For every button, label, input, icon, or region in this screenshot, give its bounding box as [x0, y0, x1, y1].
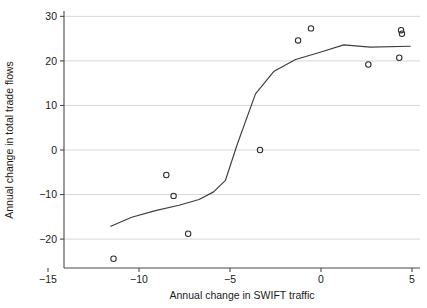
- plot-canvas: −20−100102030 −15−10−505 Annual change i…: [0, 0, 427, 308]
- data-point: [366, 62, 371, 67]
- data-point: [308, 26, 313, 31]
- data-point: [399, 31, 404, 36]
- x-tickmark-group: [48, 268, 412, 272]
- data-point: [111, 256, 116, 261]
- y-tick-label-group: −20−100102030: [39, 10, 57, 245]
- y-tickmark-group: [60, 16, 64, 239]
- scatter-plot-figure: −20−100102030 −15−10−505 Annual change i…: [0, 0, 427, 308]
- data-point: [171, 193, 176, 198]
- y-axis-title: Annual change in total trade flows: [3, 61, 15, 219]
- x-tick-label-3: 0: [318, 273, 324, 285]
- gridline-group: [64, 16, 420, 239]
- x-tick-label-group: −15−10−505: [39, 273, 415, 285]
- x-tick-label-0: −15: [39, 273, 57, 285]
- y-tick-label-1: −10: [39, 188, 57, 200]
- data-point: [164, 172, 169, 177]
- data-point: [397, 55, 402, 60]
- y-tick-label-3: 10: [45, 99, 57, 111]
- y-tick-label-5: 30: [45, 10, 57, 22]
- y-tick-label-2: 0: [51, 144, 57, 156]
- x-tick-label-4: 5: [409, 273, 415, 285]
- y-tick-label-4: 20: [45, 55, 57, 67]
- data-point: [295, 38, 300, 43]
- x-tick-label-1: −10: [130, 273, 148, 285]
- x-tick-label-2: −5: [224, 273, 236, 285]
- fitted-trend-line: [111, 45, 410, 226]
- y-tick-label-0: −20: [39, 233, 57, 245]
- x-axis-title: Annual change in SWIFT traffic: [170, 289, 315, 301]
- data-point: [185, 231, 190, 236]
- data-point: [398, 27, 403, 32]
